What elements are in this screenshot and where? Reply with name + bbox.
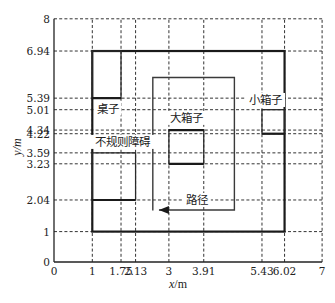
y-tick-label: 1 [43, 226, 50, 238]
desk-label: 桌子 [97, 102, 119, 116]
x-tick-label: 6.02 [273, 265, 296, 277]
y-tick-label: 3.59 [27, 147, 50, 159]
room-layout-diagram: 011.752.1333.915.436.027012.043.233.594.… [0, 0, 335, 303]
y-tick-label: 0 [43, 256, 50, 268]
y-tick-label: 6.94 [27, 45, 51, 57]
small-box-label: 小箱子 [249, 93, 282, 107]
x-tick-label: 3.91 [192, 265, 215, 277]
x-axis-title: x/m [168, 277, 188, 291]
large-box-label: 大箱子 [170, 111, 203, 125]
y-tick-label: 5.39 [27, 92, 50, 104]
y-tick-label: 4.34 [27, 124, 51, 136]
y-tick-label: 2.04 [27, 194, 51, 206]
y-tick-label: 5.01 [27, 104, 50, 116]
x-tick-label: 0 [51, 265, 58, 277]
y-axis-title: y/m [10, 138, 24, 157]
x-tick-label: 7 [319, 265, 326, 277]
x-tick-label: 5.43 [250, 265, 273, 277]
y-tick-label: 3.23 [27, 158, 50, 170]
x-tick-label: 2.13 [124, 265, 147, 277]
x-axis-unit: /m [174, 277, 187, 291]
y-tick-label: 8 [43, 13, 50, 25]
irregular-obstacle-label: 不规则障碍 [95, 135, 151, 149]
path-label: 路径 [186, 193, 208, 207]
x-tick-label: 3 [166, 265, 173, 277]
x-tick-label: 1 [89, 265, 96, 277]
